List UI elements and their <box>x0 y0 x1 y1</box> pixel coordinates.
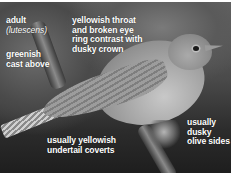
bird-feet <box>148 120 180 150</box>
bird-photo: adult (lutescens) greenish cast above ye… <box>0 2 231 173</box>
label-upperparts: greenish cast above <box>6 50 49 69</box>
label-head-line4: dusky crown <box>72 45 142 55</box>
label-undertail: usually yellowish undertail coverts <box>47 136 116 155</box>
label-upperparts-line2: cast above <box>6 60 49 70</box>
bird-eye <box>193 46 199 51</box>
label-sides-line3: olive sides <box>187 137 230 147</box>
bird-head <box>168 34 212 70</box>
bird-beak <box>205 43 224 51</box>
label-age-line2: (lutescens) <box>6 26 47 36</box>
label-head: yellowish throat and broken eye ring con… <box>72 16 142 54</box>
label-age: adult (lutescens) <box>6 16 47 35</box>
label-undertail-line2: undertail coverts <box>47 146 116 156</box>
label-sides: usually dusky olive sides <box>187 118 230 147</box>
